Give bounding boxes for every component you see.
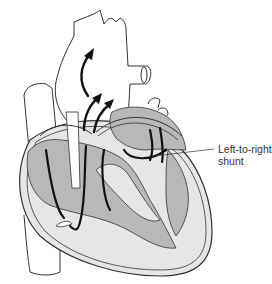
pulmonary-artery-end <box>141 67 147 83</box>
heart-diagram <box>0 0 272 284</box>
annotation-line2: shunt <box>218 155 272 167</box>
annotation-left-to-right-shunt: Left-to-right shunt <box>218 143 272 167</box>
annotation-line1: Left-to-right <box>218 143 272 155</box>
